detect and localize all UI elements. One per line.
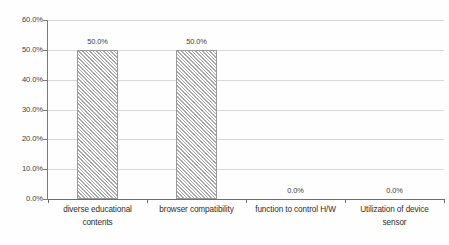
y-axis-tick-mark bbox=[43, 169, 48, 170]
y-axis-tick-label: 30.0% bbox=[1, 106, 43, 114]
y-axis-tick-label: 50.0% bbox=[1, 46, 43, 54]
x-axis-category-label: diverse educationalcontents bbox=[48, 203, 147, 229]
y-axis-tick-mark bbox=[43, 50, 48, 51]
x-axis-tick-mark bbox=[246, 199, 247, 203]
bar bbox=[176, 50, 217, 199]
y-axis-tick-label: 10.0% bbox=[1, 165, 43, 173]
category-label-line: browser compatibility bbox=[147, 203, 246, 216]
bar-data-label: 50.0% bbox=[167, 38, 227, 45]
y-axis-tick-label: 0.0% bbox=[1, 195, 43, 203]
category-label-line: sensor bbox=[345, 216, 444, 229]
bar-data-label: 0.0% bbox=[365, 187, 425, 194]
bar-data-label: 50.0% bbox=[68, 38, 128, 45]
bar-data-label: 0.0% bbox=[266, 187, 326, 194]
y-axis-tick-label: 20.0% bbox=[1, 135, 43, 143]
category-label-line: contents bbox=[48, 216, 147, 229]
x-axis-end-tick bbox=[48, 199, 49, 203]
plot-area: 50.0%50.0%0.0%0.0% bbox=[48, 20, 444, 199]
y-axis-tick-mark bbox=[43, 110, 48, 111]
y-axis-tick-labels: 0.0%10.0%20.0%30.0%40.0%50.0%60.0% bbox=[0, 0, 43, 245]
x-axis-category-labels: diverse educationalcontentsbrowser compa… bbox=[48, 203, 444, 245]
y-axis-tick-mark bbox=[43, 20, 48, 21]
y-axis-tick-label: 40.0% bbox=[1, 76, 43, 84]
bar-chart: 0.0%10.0%20.0%30.0%40.0%50.0%60.0% 50.0%… bbox=[0, 0, 449, 245]
x-axis-end-tick bbox=[444, 199, 445, 203]
category-label-line: diverse educational bbox=[48, 203, 147, 216]
x-axis-category-label: Utilization of devicesensor bbox=[345, 203, 444, 229]
x-axis-category-label: function to control H/W bbox=[246, 203, 345, 216]
bar bbox=[77, 50, 118, 199]
y-axis-tick-mark bbox=[43, 80, 48, 81]
category-label-line: Utilization of device bbox=[345, 203, 444, 216]
x-axis-tick-mark bbox=[147, 199, 148, 203]
category-label-line: function to control H/W bbox=[246, 203, 345, 216]
x-axis-category-label: browser compatibility bbox=[147, 203, 246, 216]
y-axis-tick-mark bbox=[43, 139, 48, 140]
gridline bbox=[48, 20, 444, 21]
x-axis-tick-mark bbox=[345, 199, 346, 203]
y-axis-tick-label: 60.0% bbox=[1, 16, 43, 24]
